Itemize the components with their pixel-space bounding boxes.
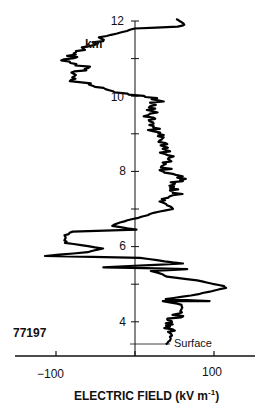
surface-label: Surface <box>174 337 212 349</box>
y-tick-label-12: 12 <box>104 15 124 27</box>
x-axis-title: ELECTRIC FIELD (kV m-1) <box>74 388 219 403</box>
x-axis-title-close: ) <box>215 389 219 403</box>
x-axis-title-main: ELECTRIC FIELD (kV m <box>74 389 208 403</box>
y-tick-label-8: 8 <box>106 165 126 177</box>
chart-figure: 12 10 8 6 4 km 77197 Surface −100 100 EL… <box>0 0 269 419</box>
y-tick-label-4: 4 <box>106 316 126 328</box>
x-tick-label-100: 100 <box>202 366 222 378</box>
y-axis-unit-label: km <box>85 37 102 51</box>
electric-field-profile-line <box>45 19 226 344</box>
y-tick-label-6: 6 <box>106 240 126 252</box>
x-tick-label-neg100: −100 <box>37 368 64 380</box>
sounding-id-label: 77197 <box>13 326 46 340</box>
plot-area <box>0 0 269 419</box>
y-tick-label-10: 10 <box>104 91 124 103</box>
